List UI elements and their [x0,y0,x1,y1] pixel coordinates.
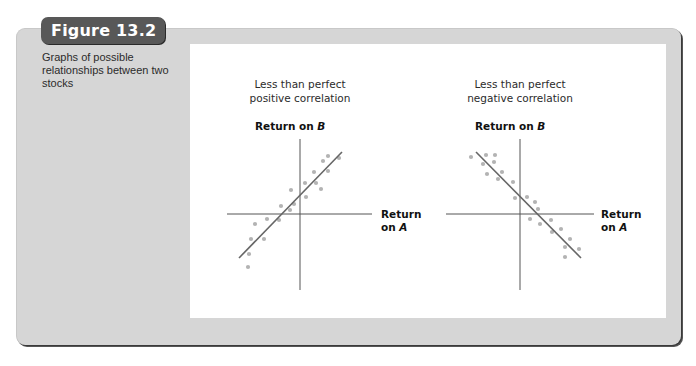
data-point [253,222,257,226]
data-point [533,200,537,204]
data-point [289,188,293,192]
data-point [326,154,330,158]
data-point [326,169,330,173]
data-point [496,177,500,181]
data-point [511,180,515,184]
data-point [484,153,488,157]
data-point [246,265,250,269]
scatter-chart-negative [446,139,594,290]
data-point [481,162,485,166]
data-point [538,222,542,226]
scatter-plots [0,0,696,366]
data-point [500,170,504,174]
data-point [492,160,496,164]
data-point [262,237,266,241]
data-point [563,245,567,249]
data-point [279,204,283,208]
data-point [321,159,325,163]
fit-line [239,152,342,258]
data-point [469,155,473,159]
fit-line [476,152,581,258]
data-point [568,237,572,241]
data-point [563,255,567,259]
data-point [525,195,529,199]
data-point [549,218,553,222]
data-point [249,237,253,241]
data-point [265,217,269,221]
data-point [485,172,489,176]
data-point [319,187,323,191]
data-point [559,227,563,231]
data-point [536,207,540,211]
data-point [528,217,532,221]
data-point [513,196,517,200]
data-point [314,181,318,185]
scatter-chart-positive [227,139,372,290]
data-point [577,247,581,251]
data-point [247,252,251,256]
data-point [312,170,316,174]
data-point [493,153,497,157]
data-point [303,181,307,185]
data-point [288,208,292,212]
data-point [304,195,308,199]
